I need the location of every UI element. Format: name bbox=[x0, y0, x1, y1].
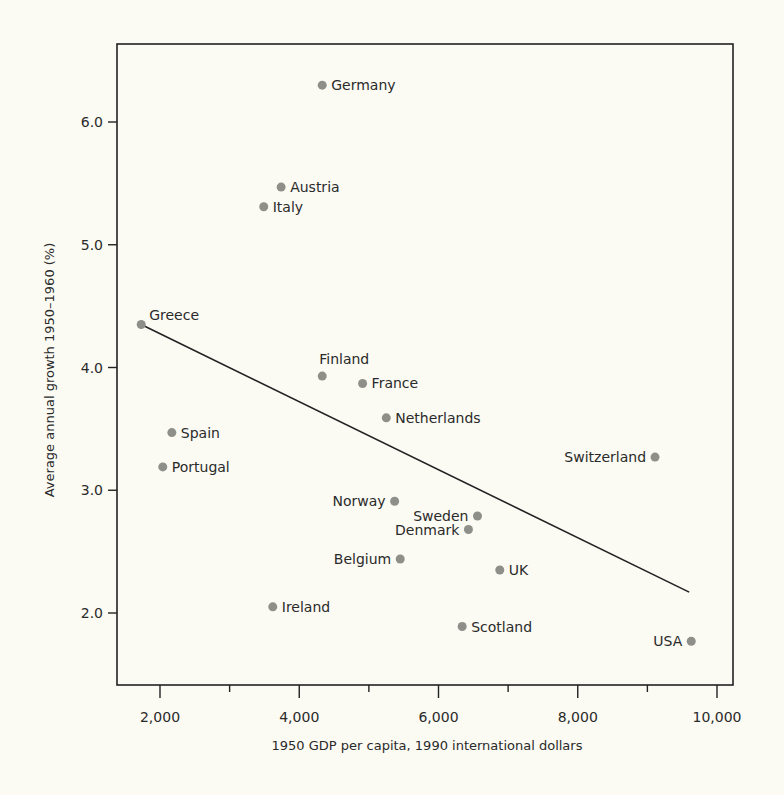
y-tick-label: 2.0 bbox=[81, 605, 103, 621]
data-point-uk: UK bbox=[495, 562, 529, 578]
y-tick-label: 6.0 bbox=[81, 114, 103, 130]
point-marker bbox=[318, 372, 327, 381]
point-label: Belgium bbox=[334, 551, 391, 567]
point-label: Portugal bbox=[172, 459, 230, 475]
x-tick-label: 2,000 bbox=[140, 709, 180, 725]
data-point-austria: Austria bbox=[277, 179, 340, 195]
point-marker bbox=[473, 512, 482, 521]
data-point-france: France bbox=[358, 375, 418, 391]
data-point-scotland: Scotland bbox=[458, 619, 532, 635]
point-marker bbox=[167, 428, 176, 437]
data-point-portugal: Portugal bbox=[158, 459, 229, 475]
point-marker bbox=[687, 637, 696, 646]
x-tick-label: 6,000 bbox=[418, 709, 458, 725]
data-point-belgium: Belgium bbox=[334, 551, 405, 567]
x-tick-label: 4,000 bbox=[279, 709, 319, 725]
x-tick-label: 10,000 bbox=[693, 709, 742, 725]
x-axis: 2,0004,0006,0008,00010,000 bbox=[140, 685, 742, 725]
point-label: Netherlands bbox=[395, 410, 480, 426]
point-marker bbox=[318, 81, 327, 90]
point-label: Norway bbox=[333, 493, 386, 509]
point-marker bbox=[382, 413, 391, 422]
data-point-italy: Italy bbox=[259, 199, 303, 215]
point-label: Italy bbox=[273, 199, 303, 215]
plot-frame bbox=[117, 44, 733, 685]
point-marker bbox=[651, 453, 660, 462]
y-tick-label: 5.0 bbox=[81, 237, 103, 253]
data-point-greece: Greece bbox=[137, 307, 199, 330]
point-marker bbox=[358, 379, 367, 388]
point-label: UK bbox=[509, 562, 529, 578]
x-tick-label: 8,000 bbox=[558, 709, 598, 725]
point-label: Spain bbox=[181, 425, 220, 441]
data-point-finland: Finland bbox=[318, 351, 370, 381]
point-label: Denmark bbox=[395, 522, 460, 538]
point-marker bbox=[259, 202, 268, 211]
point-marker bbox=[464, 525, 473, 534]
y-axis-title: Average annual growth 1950–1960 (%) bbox=[42, 243, 57, 498]
point-label: USA bbox=[653, 633, 682, 649]
point-label: Greece bbox=[149, 307, 199, 323]
point-marker bbox=[158, 462, 167, 471]
scatter-chart: 2,0004,0006,0008,00010,000 2.03.04.05.06… bbox=[0, 0, 784, 795]
point-label: Germany bbox=[331, 77, 395, 93]
data-point-norway: Norway bbox=[333, 493, 400, 509]
data-point-usa: USA bbox=[653, 633, 695, 649]
point-label: France bbox=[372, 375, 419, 391]
y-tick-label: 3.0 bbox=[81, 482, 103, 498]
point-label: Ireland bbox=[282, 599, 330, 615]
point-marker bbox=[268, 602, 277, 611]
point-marker bbox=[396, 554, 405, 563]
y-axis: 2.03.04.05.06.0 bbox=[81, 114, 117, 621]
point-marker bbox=[137, 320, 146, 329]
data-point-germany: Germany bbox=[318, 77, 396, 93]
point-label: Scotland bbox=[471, 619, 532, 635]
x-axis-title: 1950 GDP per capita, 1990 international … bbox=[272, 738, 583, 753]
plot-border bbox=[117, 44, 733, 685]
data-point-netherlands: Netherlands bbox=[382, 410, 481, 426]
point-label: Austria bbox=[290, 179, 339, 195]
data-point-ireland: Ireland bbox=[268, 599, 330, 615]
point-marker bbox=[277, 183, 286, 192]
data-point-switzerland: Switzerland bbox=[564, 449, 659, 465]
point-label: Switzerland bbox=[564, 449, 646, 465]
chart-canvas: 2,0004,0006,0008,00010,000 2.03.04.05.06… bbox=[0, 0, 784, 795]
point-label: Finland bbox=[319, 351, 369, 367]
point-marker bbox=[495, 566, 504, 575]
point-marker bbox=[390, 497, 399, 506]
data-point-spain: Spain bbox=[167, 425, 220, 441]
point-marker bbox=[458, 622, 467, 631]
y-tick-label: 4.0 bbox=[81, 360, 103, 376]
